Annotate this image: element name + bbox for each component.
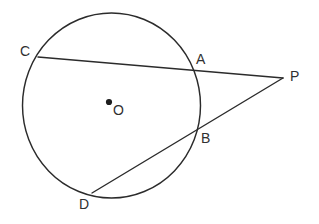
geometry-canvas	[0, 0, 319, 224]
geometry-figure: C A P B D O	[0, 0, 319, 224]
point-label-p: P	[290, 69, 299, 83]
secant-line-cp	[38, 57, 283, 78]
point-label-d: D	[79, 197, 89, 211]
point-label-c: C	[20, 44, 30, 58]
point-label-a: A	[196, 52, 205, 66]
center-point-dot	[106, 99, 112, 105]
point-label-b: B	[201, 131, 210, 145]
secant-line-dp	[92, 78, 283, 193]
circle-outline	[23, 13, 201, 198]
point-label-o: O	[113, 103, 124, 117]
